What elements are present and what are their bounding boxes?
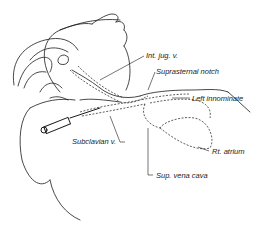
anatomy-illustration: Int. jug. v. Suprasternal notch Left inn… <box>0 0 265 231</box>
label-suprasternal-notch: Suprasternal notch <box>156 68 219 76</box>
label-left-innominate: Left innominate <box>192 95 243 103</box>
label-subclavian-v: Subclavian v. <box>72 138 116 146</box>
hair-drawing <box>13 19 120 100</box>
label-rt-atrium: Rt. atrium <box>212 148 245 156</box>
label-int-jug-v: Int. jug. v. <box>146 52 178 60</box>
label-sup-vena-cava: Sup. vena cava <box>156 172 208 180</box>
head-drawing <box>58 14 140 102</box>
illustration-drawing <box>0 0 265 231</box>
syringe-drawing <box>41 108 100 134</box>
